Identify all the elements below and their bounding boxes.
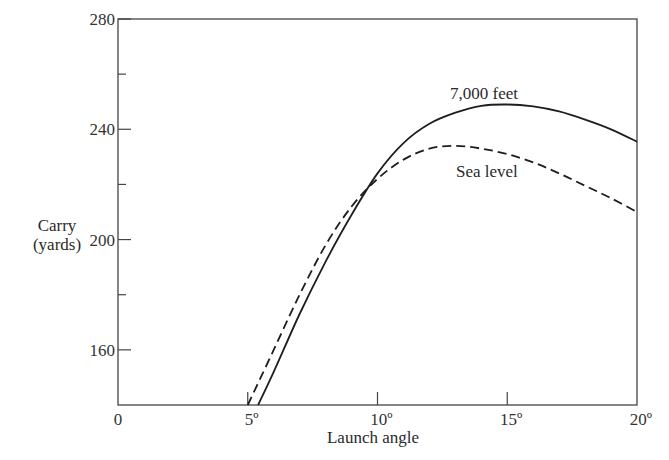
data-series: [248, 104, 637, 405]
label-7000-feet: 7,000 feet: [450, 84, 518, 103]
y-tick-label: 280: [90, 10, 116, 29]
y-axis-ticks: 160200240280: [90, 10, 132, 360]
series-labels: 7,000 feetSea level: [450, 84, 518, 181]
sea-level-curve: [248, 146, 637, 405]
x-tick-label: 20º: [630, 410, 652, 429]
y-tick-label: 240: [90, 120, 116, 139]
x-axis-title: Launch angle: [327, 428, 419, 447]
x-tick-label: 15º: [500, 410, 522, 429]
x-tick-label: 10º: [370, 410, 392, 429]
y-tick-label: 160: [90, 341, 116, 360]
seven-thousand-feet-curve: [258, 104, 637, 405]
y-axis-title-line1: Carry: [38, 216, 77, 235]
x-tick-label: 5º: [245, 410, 259, 429]
label-sea-level: Sea level: [456, 162, 518, 181]
axis-titles: Launch angleCarry(yards): [33, 216, 419, 447]
y-axis-title-line2: (yards): [33, 235, 81, 254]
carry-vs-launch-angle-chart: 160200240280 05º10º15º20º 7,000 feetSea …: [0, 0, 669, 460]
plot-border: [118, 19, 637, 405]
x-axis-ticks: 05º10º15º20º: [114, 392, 652, 429]
x-tick-label: 0: [114, 410, 123, 429]
plot-frame: [118, 19, 637, 405]
y-tick-label: 200: [90, 231, 116, 250]
